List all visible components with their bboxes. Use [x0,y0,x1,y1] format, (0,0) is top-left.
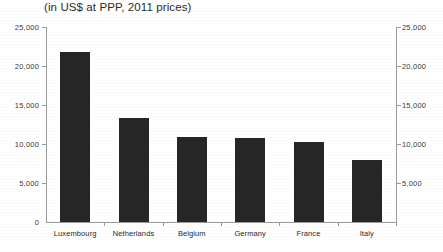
left-axis-tick-label: 20,000 [1,62,39,71]
right-axis-tick-label: 10,000 [402,140,443,149]
category-label: Netherlands [104,229,162,238]
bar [60,52,90,222]
left-axis-tick-label: 10,000 [1,140,39,149]
category-tick [104,222,105,226]
left-axis-tick [42,183,46,184]
bar [235,138,265,222]
bar [177,137,207,222]
y-axis-zero-label: 0 [1,218,39,227]
right-axis-tick-label: 20,000 [402,62,443,71]
plot-area: 25,00020,00015,00010,0005,000 25,00020,0… [0,0,443,252]
left-axis-line [46,27,47,223]
category-tick [396,222,397,226]
category-label: Luxembourg [46,229,104,238]
left-axis-tick-label: 25,000 [1,23,39,32]
bar [294,142,324,222]
right-axis-line [396,27,397,223]
chart-page: (in US$ at PPP, 2011 prices) 25,00020,00… [0,0,443,252]
right-axis-tick [397,144,401,145]
left-axis-tick [42,66,46,67]
bar [352,160,382,222]
right-axis-tick [397,66,401,67]
right-axis-tick [397,105,401,106]
category-tick [221,222,222,226]
right-axis-tick [397,183,401,184]
right-axis-tick-label: 15,000 [402,101,443,110]
category-label: Germany [221,229,279,238]
right-axis-tick-label: 25,000 [402,23,443,32]
left-axis-tick-label: 15,000 [1,101,39,110]
right-axis-tick-label: 5,000 [402,179,443,188]
bar [119,118,149,222]
category-label: Belgium [163,229,221,238]
category-label: France [279,229,337,238]
category-tick [163,222,164,226]
left-axis-tick [42,144,46,145]
right-axis-tick [397,27,401,28]
left-axis-tick-label: 5,000 [1,179,39,188]
left-axis-tick [42,27,46,28]
category-tick [279,222,280,226]
category-tick [338,222,339,226]
category-label: Italy [338,229,396,238]
left-axis-tick [42,105,46,106]
